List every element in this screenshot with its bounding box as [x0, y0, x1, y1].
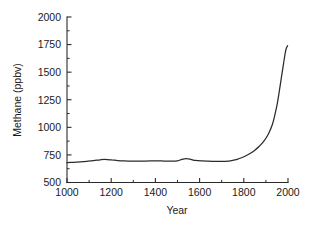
- x-axis-title: Year: [166, 204, 188, 216]
- y-tick-label-1000: 1000: [38, 121, 62, 133]
- x-axis-ticks: [67, 178, 288, 183]
- x-tick-label-1800: 1800: [232, 186, 256, 198]
- y-tick-label-2000: 2000: [38, 11, 62, 23]
- y-axis-title: Methane (ppbv): [11, 63, 23, 137]
- methane-chart-figure: 50075010001250150017502000 Methane (ppbv…: [0, 0, 315, 227]
- x-tick-label-1200: 1200: [100, 186, 124, 198]
- y-tick-label-1500: 1500: [38, 66, 62, 78]
- x-tick-label-2000: 2000: [276, 186, 300, 198]
- x-axis-group: 100012001400160018002000 Year: [55, 178, 300, 216]
- chart-canvas: 50075010001250150017502000 Methane (ppbv…: [0, 0, 315, 227]
- y-axis-tick-labels: 50075010001250150017502000: [38, 11, 62, 189]
- y-tick-label-1250: 1250: [38, 94, 62, 106]
- x-axis-tick-labels: 100012001400160018002000: [55, 186, 300, 198]
- x-tick-label-1600: 1600: [188, 186, 212, 198]
- methane-series-line: [67, 46, 288, 163]
- y-tick-label-1750: 1750: [38, 38, 62, 50]
- x-tick-label-1000: 1000: [55, 186, 79, 198]
- data-series-group: [67, 46, 288, 163]
- y-axis-ticks: [67, 17, 72, 183]
- y-axis-group: 50075010001250150017502000 Methane (ppbv…: [11, 11, 72, 189]
- y-tick-label-750: 750: [43, 149, 61, 161]
- x-tick-label-1400: 1400: [144, 186, 168, 198]
